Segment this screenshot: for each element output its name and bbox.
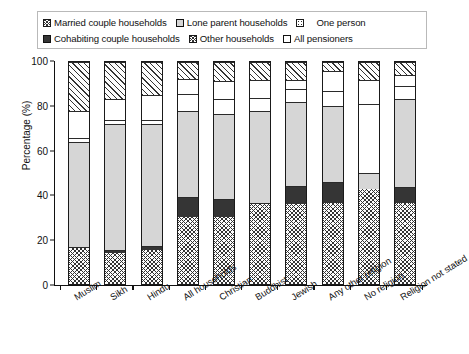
legend-item-one-person: One person bbox=[296, 18, 365, 28]
bar-segment-lone-parent-households bbox=[323, 106, 343, 181]
bar-segment-other-households bbox=[69, 111, 89, 138]
bar-segment-all-pensioners bbox=[286, 62, 306, 80]
bar-segment-all-pensioners bbox=[323, 62, 343, 71]
bar-segment-lone-parent-households bbox=[105, 124, 125, 249]
bar-segment-all-pensioners bbox=[105, 62, 125, 99]
x-tick-mark-9 bbox=[386, 285, 387, 290]
bar-segment-lone-parent-households bbox=[214, 114, 234, 198]
x-tick-mark-3 bbox=[169, 285, 170, 290]
chart-legend: Married couple households Lone parent ho… bbox=[37, 11, 427, 49]
bar-segment-married-couple-households bbox=[250, 204, 270, 284]
bar-segment-married-couple-households bbox=[286, 204, 306, 284]
legend-label-lone-parent-households: Lone parent households bbox=[187, 18, 288, 28]
y-tick-label-60: 60 bbox=[20, 145, 48, 156]
bar-group bbox=[55, 61, 427, 285]
bar-segment-lone-parent-households bbox=[359, 173, 379, 189]
bar-segment-other-households bbox=[359, 80, 379, 104]
bar-segment-all-pensioners bbox=[178, 62, 198, 79]
legend-item-all-pensioners: All pensioners bbox=[283, 34, 353, 44]
bar-segment-married-couple-households bbox=[142, 250, 162, 284]
bar-segment-one-person bbox=[286, 89, 306, 102]
y-tick-label-100: 100 bbox=[20, 56, 48, 67]
x-axis-ticks bbox=[54, 285, 427, 291]
bar-segment-lone-parent-households bbox=[250, 111, 270, 203]
bar-segment-one-person bbox=[214, 99, 234, 115]
bar-segment-all-pensioners bbox=[69, 62, 89, 111]
legend-swatch-grey-icon bbox=[176, 19, 184, 27]
y-tick-label-40: 40 bbox=[20, 190, 48, 201]
legend-swatch-solid-icon bbox=[43, 35, 51, 43]
y-axis-ticks: 020406080100 bbox=[20, 55, 54, 291]
bar-segment-all-pensioners bbox=[142, 62, 162, 95]
x-tick-mark-2 bbox=[132, 285, 133, 290]
x-tick-mark-10 bbox=[422, 285, 423, 290]
x-tick-mark-8 bbox=[350, 285, 351, 290]
bar-segment-other-households bbox=[250, 80, 270, 98]
x-tick-mark-7 bbox=[313, 285, 314, 290]
legend-swatch-crosshatch-2-icon bbox=[189, 35, 197, 43]
plot-area bbox=[54, 61, 427, 286]
legend-item-cohabiting-couple-households: Cohabiting couple households bbox=[43, 34, 180, 44]
x-tick-mark-4 bbox=[205, 285, 206, 290]
legend-swatch-crosshatch-icon bbox=[43, 19, 51, 27]
bar-any-other-religion[interactable] bbox=[322, 61, 344, 285]
bar-jewish[interactable] bbox=[285, 61, 307, 285]
legend-row-1: Married couple households Lone parent ho… bbox=[43, 15, 422, 31]
x-tick-mark-1 bbox=[96, 285, 97, 290]
bar-segment-cohabiting-couple-households bbox=[286, 186, 306, 204]
bar-all-households[interactable] bbox=[177, 61, 199, 285]
bar-segment-one-person bbox=[359, 104, 379, 173]
bar-segment-other-households bbox=[395, 75, 415, 86]
legend-swatch-dotted-icon bbox=[296, 19, 304, 27]
bar-segment-other-households bbox=[286, 80, 306, 89]
y-tick-label-20: 20 bbox=[20, 235, 48, 246]
legend-item-married-couple-households: Married couple households bbox=[43, 18, 167, 28]
bar-segment-cohabiting-couple-households bbox=[395, 187, 415, 203]
bar-segment-other-households bbox=[105, 99, 125, 120]
bar-segment-married-couple-households bbox=[214, 217, 234, 284]
bar-segment-married-couple-households bbox=[323, 203, 343, 284]
legend-swatch-white-icon bbox=[283, 35, 291, 43]
bar-segment-cohabiting-couple-households bbox=[178, 197, 198, 217]
bar-segment-lone-parent-households bbox=[395, 99, 415, 188]
bar-segment-married-couple-households bbox=[359, 189, 379, 284]
bar-hindu[interactable] bbox=[141, 61, 163, 285]
bar-segment-one-person bbox=[323, 91, 343, 107]
bar-segment-married-couple-households bbox=[69, 248, 89, 284]
bar-segment-lone-parent-households bbox=[178, 111, 198, 198]
bar-segment-one-person bbox=[178, 94, 198, 111]
bar-sikh[interactable] bbox=[104, 61, 126, 285]
y-tick-label-0: 0 bbox=[20, 280, 48, 291]
bar-segment-other-households bbox=[178, 79, 198, 95]
bar-muslim[interactable] bbox=[68, 61, 90, 285]
bar-segment-cohabiting-couple-households bbox=[214, 199, 234, 218]
bar-buddhist[interactable] bbox=[249, 61, 271, 285]
bar-segment-one-person bbox=[250, 98, 270, 111]
bar-segment-other-households bbox=[323, 71, 343, 91]
legend-item-other-households: Other households bbox=[189, 34, 274, 44]
bar-christian[interactable] bbox=[213, 61, 235, 285]
bar-segment-all-pensioners bbox=[395, 62, 415, 75]
x-tick-mark-6 bbox=[277, 285, 278, 290]
legend-label-one-person: One person bbox=[316, 18, 365, 28]
legend-item-lone-parent-households: Lone parent households bbox=[176, 18, 288, 28]
bar-segment-married-couple-households bbox=[105, 253, 125, 284]
legend-label-cohabiting-couple-households: Cohabiting couple households bbox=[54, 34, 180, 44]
bar-religion-not-stated[interactable] bbox=[394, 61, 416, 285]
legend-row-2: Cohabiting couple households Other house… bbox=[43, 31, 422, 47]
bar-segment-lone-parent-households bbox=[69, 142, 89, 247]
x-tick-mark-0 bbox=[60, 285, 61, 290]
bar-segment-one-person bbox=[395, 86, 415, 98]
bar-segment-other-households bbox=[214, 81, 234, 99]
legend-label-other-households: Other households bbox=[200, 34, 274, 44]
y-tick-label-80: 80 bbox=[20, 100, 48, 111]
bar-no-religion[interactable] bbox=[358, 61, 380, 285]
bar-segment-all-pensioners bbox=[359, 62, 379, 80]
legend-label-all-pensioners: All pensioners bbox=[294, 34, 353, 44]
bar-segment-lone-parent-households bbox=[286, 102, 306, 186]
bar-segment-lone-parent-households bbox=[142, 124, 162, 246]
bar-segment-cohabiting-couple-households bbox=[323, 182, 343, 203]
bar-segment-other-households bbox=[142, 95, 162, 119]
bar-segment-married-couple-households bbox=[178, 217, 198, 284]
